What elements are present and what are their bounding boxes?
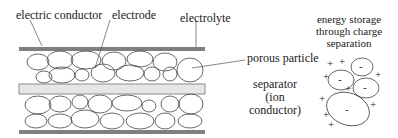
leader-lines [30, 20, 245, 68]
label-separator: separator (ion conductor) [220, 78, 330, 117]
separator-bar [19, 84, 205, 94]
plus-sign: + [375, 68, 381, 80]
bottom-electrode-particles [25, 94, 203, 129]
minus-sign: - [359, 60, 363, 72]
bottom-conductor-bar [19, 130, 205, 134]
label-electrolyte: electrolyte [180, 12, 231, 25]
top-electrode-particles [27, 51, 203, 83]
plus-sign: + [370, 98, 376, 110]
minus-sign: - [338, 73, 342, 85]
plus-sign: + [345, 82, 351, 94]
top-conductor-bar [19, 47, 205, 51]
label-porous-particle: porous particle [247, 52, 319, 65]
label-electric-conductor: electric conductor [16, 9, 102, 22]
plus-sign: + [328, 118, 334, 130]
minus-sign: - [363, 81, 367, 93]
plus-sign: + [327, 57, 333, 69]
minus-sign: - [345, 103, 349, 115]
label-electrode: electrode [112, 9, 156, 22]
label-energy-storage: energy storage through charge separation [300, 13, 398, 49]
plus-sign: + [339, 55, 345, 67]
